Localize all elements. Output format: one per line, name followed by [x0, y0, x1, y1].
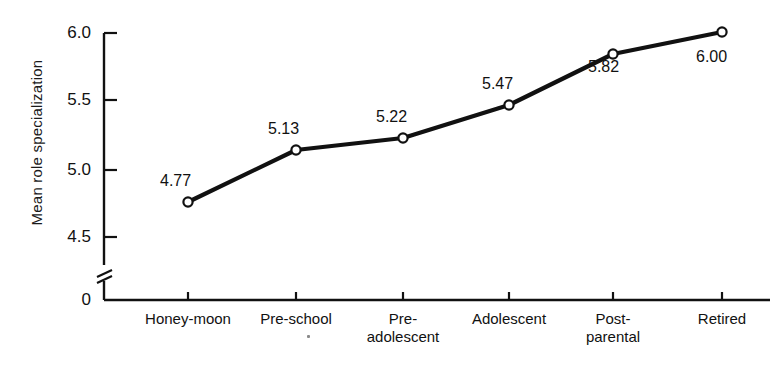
chart-figure: Mean role specialization 6.0 5.5 5.0 4.5…: [0, 0, 782, 368]
data-point-3: [398, 133, 407, 142]
data-point-4: [504, 100, 513, 109]
data-point-6: [717, 27, 726, 36]
data-point-5: [608, 49, 617, 58]
chart-plot-area: [0, 0, 782, 368]
data-line-mean-role-specialization: [188, 32, 722, 202]
data-point-1: [183, 197, 192, 206]
data-point-2: [291, 145, 300, 154]
